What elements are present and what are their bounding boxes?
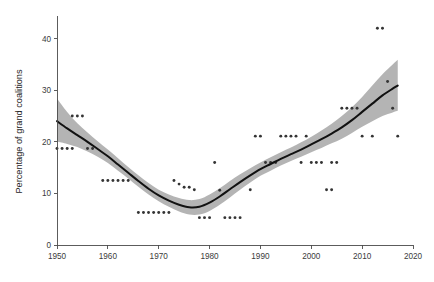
data-point — [310, 161, 313, 164]
data-point — [213, 161, 216, 164]
data-point — [325, 188, 328, 191]
data-point — [71, 147, 74, 150]
y-tick-label: 10 — [42, 189, 52, 198]
data-point — [152, 211, 155, 214]
x-tick-label: 2020 — [404, 252, 423, 261]
data-point — [167, 211, 170, 214]
data-point — [361, 135, 364, 138]
x-tick-label: 1950 — [48, 252, 67, 261]
data-point — [330, 161, 333, 164]
x-tick-label: 1990 — [251, 252, 270, 261]
data-point — [234, 216, 237, 219]
data-point — [157, 211, 160, 214]
data-point — [223, 216, 226, 219]
data-point — [381, 27, 384, 30]
data-point — [178, 183, 181, 186]
data-point — [91, 147, 94, 150]
data-point — [218, 189, 221, 192]
data-point — [254, 135, 257, 138]
data-point — [122, 179, 125, 182]
data-point — [173, 179, 176, 182]
data-point — [76, 115, 79, 118]
data-point — [376, 27, 379, 30]
y-tick-label: 0 — [46, 241, 51, 250]
data-point — [137, 211, 140, 214]
data-point — [127, 179, 130, 182]
data-point — [198, 216, 201, 219]
data-point — [81, 115, 84, 118]
data-point — [239, 216, 242, 219]
y-axis-title: Percentage of grand coalitions — [14, 69, 24, 194]
data-point — [356, 107, 359, 110]
x-tick-label: 2000 — [302, 252, 321, 261]
y-axis-title-group: Percentage of grand coalitions — [14, 69, 24, 194]
y-tick-label: 20 — [42, 138, 52, 147]
x-tick-label: 1980 — [200, 252, 219, 261]
scatter-plot-with-trend: 010203040 195019601970198019902000201020… — [0, 0, 434, 282]
data-point — [315, 161, 318, 164]
data-point — [71, 115, 74, 118]
data-point — [391, 107, 394, 110]
data-point — [335, 161, 338, 164]
data-point — [264, 161, 267, 164]
data-point — [86, 147, 89, 150]
x-tick-label: 1970 — [150, 252, 169, 261]
data-point — [61, 147, 64, 150]
data-point — [162, 211, 165, 214]
chart-container: 010203040 195019601970198019902000201020… — [0, 0, 434, 282]
data-point — [228, 216, 231, 219]
data-point — [330, 188, 333, 191]
data-point — [147, 211, 150, 214]
data-point — [106, 179, 109, 182]
data-point — [203, 216, 206, 219]
data-point — [208, 216, 211, 219]
data-point — [371, 135, 374, 138]
data-point — [340, 107, 343, 110]
y-tick-label: 30 — [42, 86, 52, 95]
data-point — [396, 135, 399, 138]
data-point — [183, 186, 186, 189]
data-point — [300, 161, 303, 164]
data-point — [284, 135, 287, 138]
data-point — [345, 107, 348, 110]
x-tick-label: 1960 — [99, 252, 118, 261]
data-point — [101, 179, 104, 182]
data-point — [117, 179, 120, 182]
data-point — [111, 179, 114, 182]
data-point — [320, 161, 323, 164]
data-point — [249, 188, 252, 191]
data-point — [279, 135, 282, 138]
data-point — [351, 107, 354, 110]
data-point — [289, 135, 292, 138]
data-point — [386, 80, 389, 83]
data-point — [193, 188, 196, 191]
y-tick-label: 40 — [42, 35, 52, 44]
data-point — [66, 147, 69, 150]
x-tick-label: 2010 — [353, 252, 372, 261]
data-point — [259, 135, 262, 138]
data-point — [295, 135, 298, 138]
data-point — [142, 211, 145, 214]
data-point — [305, 135, 308, 138]
data-point — [188, 186, 191, 189]
